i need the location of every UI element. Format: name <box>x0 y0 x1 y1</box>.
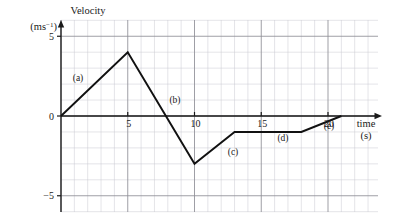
velocity-time-graph-figure: Velocity(ms−1)50−55101520time(s)(a)(b)(c… <box>0 0 394 219</box>
segment-label-a: (a) <box>73 73 84 84</box>
y-axis-title-velocity: Velocity <box>71 5 107 16</box>
x-tick-label-10: 10 <box>191 118 201 129</box>
y-tick-label--5: −5 <box>43 190 54 201</box>
segment-label-b: (b) <box>169 95 180 106</box>
x-axis-unit-label: (s) <box>360 130 372 142</box>
x-axis-title-time: time <box>357 118 376 129</box>
figure-background <box>0 0 394 219</box>
x-tick-label-15: 15 <box>257 118 267 129</box>
y-tick-label-0: 0 <box>49 111 54 122</box>
segment-label-d: (d) <box>277 133 288 144</box>
y-tick-label-5: 5 <box>49 31 54 42</box>
segment-label-e: (e) <box>324 121 335 132</box>
segment-label-c: (c) <box>228 147 239 158</box>
x-tick-label-5: 5 <box>126 118 131 129</box>
chart-canvas: Velocity(ms−1)50−55101520time(s)(a)(b)(c… <box>0 0 394 219</box>
